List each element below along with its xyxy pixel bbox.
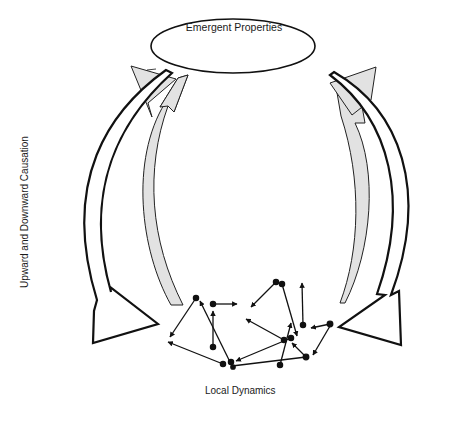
- causation-diagram: [0, 0, 452, 421]
- causation-axis-label: Upward and Downward Causation: [19, 136, 30, 288]
- local-dynamics-label: Local Dynamics: [205, 385, 276, 396]
- emergent-properties-label: Emergent Properties: [179, 21, 289, 33]
- local-dynamics-network: [168, 279, 333, 369]
- left-downward-arrow: [84, 70, 172, 343]
